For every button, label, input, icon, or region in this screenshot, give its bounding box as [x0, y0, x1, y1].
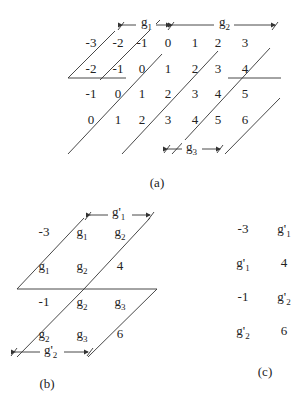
grid-value: 2	[192, 61, 199, 76]
grid-value: -1	[86, 86, 97, 101]
grid-value: -2	[86, 61, 97, 76]
slant-line	[225, 98, 280, 154]
grid-value: 0	[88, 112, 95, 127]
panel-c: -3g'1g'14-1g'2g'26 (c)	[236, 221, 290, 379]
grid-value: 5	[242, 86, 249, 101]
grid-symbol: -1	[238, 289, 249, 304]
grid-symbol: g'2	[236, 323, 249, 341]
grid-value: 4	[192, 112, 199, 127]
grid-value: 2	[139, 112, 146, 127]
grid-value: -1	[113, 61, 124, 76]
grid-value: 3	[165, 112, 172, 127]
grid-symbol: g3	[115, 294, 127, 312]
grid-value: -3	[86, 35, 97, 50]
grid-value: 1	[165, 61, 172, 76]
grid-symbol: g'1	[236, 255, 249, 273]
reduced-grid: -3g'1g'14-1g'2g'26	[236, 221, 290, 341]
grid-symbol: 6	[281, 323, 288, 338]
caption-a: (a)	[150, 175, 164, 190]
slant-line	[17, 218, 84, 289]
grid-value: 0	[165, 35, 172, 50]
grid-value: 3	[192, 86, 199, 101]
grid-value: 4	[215, 86, 222, 101]
symbol-grid: -3g1g2g1g24-1g2g3g2g36	[39, 224, 127, 344]
caption-b: (b)	[39, 376, 54, 391]
grid-value: 1	[139, 86, 146, 101]
slant-line	[88, 289, 157, 357]
grid-value: 1	[192, 35, 199, 50]
grid-symbol: -1	[39, 294, 50, 309]
tick-mark	[272, 22, 278, 30]
grid-value: 4	[242, 61, 249, 76]
tick-mark	[168, 22, 174, 30]
tick-mark	[148, 212, 154, 220]
grid-symbol: 6	[117, 326, 124, 341]
grid-value: 2	[165, 86, 172, 101]
panel-a: g1 g2 g3 -3-2-10123-2-101234-10123450123…	[68, 14, 281, 190]
caption-c: (c)	[258, 364, 272, 379]
grid-value: 0	[139, 61, 146, 76]
tick-mark	[118, 22, 124, 30]
value-grid: -3-2-10123-2-101234-10123450123456	[86, 35, 249, 127]
diagram-canvas: g1 g2 g3 -3-2-10123-2-101234-10123450123…	[0, 0, 306, 407]
grid-value: 2	[215, 35, 222, 50]
grid-value: 0	[115, 86, 122, 101]
grid-symbol: g'2	[277, 289, 290, 307]
grid-value: 5	[215, 112, 222, 127]
grid-value: -1	[137, 35, 148, 50]
tick-mark	[85, 212, 91, 220]
grid-symbol: g2	[115, 224, 126, 242]
grid-symbol: g'1	[277, 221, 290, 239]
grid-symbol: g2	[77, 294, 88, 312]
grid-value: 3	[215, 61, 222, 76]
grid-value: 3	[242, 35, 249, 50]
grid-symbol: -3	[39, 224, 50, 239]
grid-symbol: g1	[77, 224, 88, 242]
grid-symbol: 4	[281, 255, 288, 270]
grid-symbol: g3	[77, 326, 89, 344]
grid-symbol: g2	[77, 258, 88, 276]
panel-b: g'1 g'2 -3g1g2g1g24-1g2g3g2g36 (b)	[11, 204, 157, 391]
grid-value: 6	[242, 112, 249, 127]
grid-symbol: g1	[39, 258, 50, 276]
grid-value: 1	[115, 112, 122, 127]
grid-value: -2	[113, 35, 124, 50]
grid-symbol: -3	[238, 221, 249, 236]
grid-symbol: 4	[117, 258, 124, 273]
